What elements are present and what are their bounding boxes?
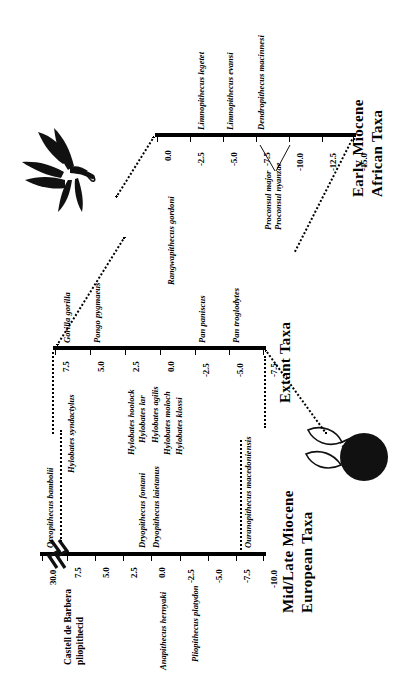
taxon-label: Dendropithecus macinnesi — [256, 35, 266, 130]
axis-tick-label: 0.0 — [166, 361, 176, 372]
tick-mark — [95, 556, 96, 561]
axis-tick-label: -2.5 — [196, 153, 206, 166]
taxon-label: Proconsul major — [263, 171, 273, 230]
tick-mark — [123, 556, 124, 561]
tick-mark — [190, 137, 191, 142]
taxon-label: Limnopithecus legetet — [196, 52, 206, 130]
axis-tick-label: 5.0 — [101, 567, 111, 578]
axis-tick-label: 0.0 — [157, 567, 167, 578]
taxon-label: Hylobates agilis — [150, 386, 160, 443]
taxon-label: pliopithecid — [75, 617, 85, 665]
leaf-sprig-illustration — [8, 118, 98, 214]
taxon-label: Oreopithecus bambolii — [45, 468, 55, 548]
taxon-label: Limnopithecus evansi — [225, 52, 235, 130]
axis-tick-label: -10.0 — [295, 153, 305, 171]
tick-mark — [223, 137, 224, 142]
taxon-label: Ouranopithecus macedoniensis — [243, 437, 253, 549]
taxon-label: Proconsul nyanzae — [273, 162, 283, 230]
taxon-label: Hylobates syndactylus — [66, 394, 76, 473]
tick-mark — [160, 350, 161, 355]
tick-mark — [42, 556, 43, 561]
taxon-label: Hylobates moloch — [162, 391, 172, 455]
mid-late-miocene-axis-bar — [40, 552, 266, 556]
panel-heading: African Taxa — [369, 110, 386, 197]
axis-tick-label: -10.0 — [269, 570, 279, 588]
taxon-label: Hylobates lar — [137, 395, 147, 443]
tick-mark — [180, 556, 181, 561]
tick-mark — [67, 556, 68, 561]
axis-tick-label: 2.5 — [131, 361, 141, 372]
tick-mark — [125, 350, 126, 355]
connector-dotted-line — [115, 136, 155, 198]
axis-tick-label: -2.5 — [186, 570, 196, 583]
axis-tick-label: 0.0 — [163, 150, 173, 161]
axis-tick-label: 7.5 — [73, 567, 83, 578]
tick-mark — [263, 556, 264, 561]
axis-tick-label: 7.5 — [61, 361, 71, 372]
tick-mark — [157, 137, 158, 142]
taxon-label: Dryopithecus fontani — [137, 473, 147, 548]
connector-dotted-line — [52, 352, 54, 434]
panel-heading: Extant Taxa — [277, 322, 294, 403]
axis-tick-label: -2.5 — [201, 364, 211, 377]
connector-dotted-line — [264, 356, 266, 428]
tick-mark — [289, 137, 290, 142]
axis-tick-label: -5.0 — [235, 364, 245, 377]
taxon-label: Castell de Barbera — [63, 589, 73, 665]
tick-mark — [256, 137, 257, 142]
taxon-label: Hylobates hoolock — [126, 389, 136, 455]
axis-tick-label: -7.5 — [242, 570, 252, 583]
axis-tick-label: 2.5 — [129, 567, 139, 578]
connector-dotted-line — [264, 349, 327, 434]
tick-mark — [195, 350, 196, 355]
panel-heading: Mid/Late Miocene — [280, 490, 297, 613]
axis-tick-label: -5.0 — [214, 570, 224, 583]
figure-canvas: 0.0 -2.5 -5.0 -7.5 -10.0 -12.5 -15.0 Ran… — [0, 0, 407, 698]
taxon-label: Pan paniscus — [197, 295, 207, 343]
tick-mark — [208, 556, 209, 561]
panel-heading: European Taxa — [299, 511, 316, 613]
axis-tick-label: -5.0 — [229, 153, 239, 166]
taxon-label: Pan troglodytes — [231, 288, 241, 343]
axis-tick-label: 30.0 — [48, 570, 58, 585]
tick-mark — [322, 137, 323, 142]
taxon-label: Hylobates klossi — [174, 397, 184, 455]
taxon-label: Rangwapithecus gordoni — [166, 196, 176, 285]
taxon-label: Dryopithecus laietanus — [151, 466, 161, 548]
panel-heading: Early Miocene — [350, 99, 367, 197]
connector-dotted-line — [240, 440, 242, 550]
tick-mark — [55, 350, 56, 355]
taxon-label: Anapithecus hernyaki — [158, 592, 168, 670]
axis-tick-label: 5.0 — [96, 361, 106, 372]
taxon-label: Pliopithecus platydon — [190, 585, 200, 662]
tick-mark — [229, 350, 230, 355]
connector-dotted-line — [60, 430, 62, 542]
tick-mark — [90, 350, 91, 355]
taxon-label: Pongo pygmaeus — [92, 283, 102, 343]
tick-mark — [236, 556, 237, 561]
tick-mark — [151, 556, 152, 561]
